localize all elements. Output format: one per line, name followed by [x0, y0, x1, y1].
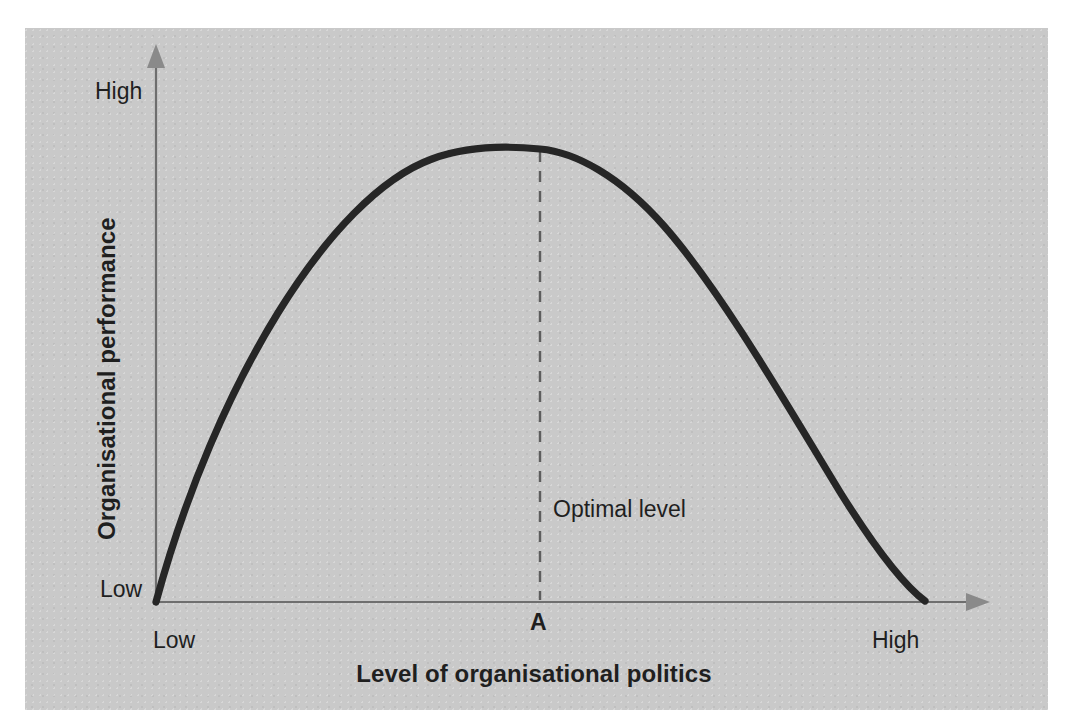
- point-a-marker-label: A: [530, 611, 547, 634]
- y-axis-title: Organisational performance: [95, 0, 129, 540]
- x-axis-low-tick-label: Low: [153, 629, 195, 652]
- x-axis-high-tick-label: High: [872, 629, 919, 652]
- figure-root: High Low Low High Optimal level A Level …: [0, 0, 1068, 724]
- y-axis-low-tick-label: Low: [100, 578, 142, 601]
- x-axis-title: Level of organisational politics: [0, 662, 1068, 686]
- optimal-level-annotation: Optimal level: [553, 498, 686, 521]
- chart-panel-background: [25, 28, 1048, 710]
